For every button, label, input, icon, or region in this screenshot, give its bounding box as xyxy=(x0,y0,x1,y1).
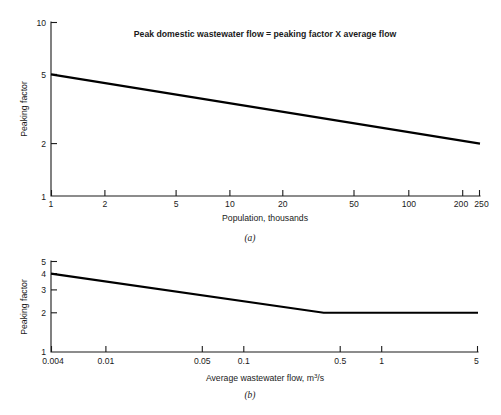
panel-a-xtick-100: 100 xyxy=(402,199,417,209)
panel-a-y-ticks xyxy=(51,23,57,144)
panel-b-y-ticklabels: 5 4 3 2 1 xyxy=(41,257,46,358)
panel-a-x-ticks xyxy=(52,190,480,196)
figure-container: Peak domestic wastewater flow = peaking … xyxy=(0,0,501,415)
panel-b-xtick-1: 1 xyxy=(379,356,384,366)
panel-b-y-ticks xyxy=(51,262,57,313)
panel-a-xtick-10: 10 xyxy=(225,199,235,209)
panel-a-xtick-1: 1 xyxy=(49,199,54,209)
panel-a-ytick-2: 2 xyxy=(41,139,46,149)
panel-a: Peak domestic wastewater flow = peaking … xyxy=(19,18,489,245)
panel-b-xtick-0004: 0.004 xyxy=(42,356,64,366)
panel-b-x-axis-label-base: Average wastewater flow, m xyxy=(206,373,314,383)
panel-b-ytick-4: 4 xyxy=(41,269,46,279)
panel-a-caption: (a) xyxy=(244,233,255,244)
panel-b-xtick-01: 0.1 xyxy=(238,356,250,366)
figure-svg: Peak domestic wastewater flow = peaking … xyxy=(0,0,501,415)
panel-b-ytick-5: 5 xyxy=(41,257,46,267)
panel-b-ytick-2: 2 xyxy=(41,308,46,318)
panel-a-xtick-20: 20 xyxy=(278,199,288,209)
panel-b-x-ticks xyxy=(52,346,478,352)
panel-a-xtick-50: 50 xyxy=(349,199,359,209)
panel-b-ytick-3: 3 xyxy=(41,285,46,295)
panel-a-y-axis-label: Peaking factor xyxy=(19,81,29,137)
panel-a-data-line xyxy=(51,74,480,143)
panel-b-x-axis-label: Average wastewater flow, m3/s xyxy=(206,372,325,383)
panel-a-y-ticklabels: 10 5 2 1 xyxy=(36,18,46,202)
panel-b-data-line xyxy=(51,274,478,313)
panel-a-ytick-10: 10 xyxy=(36,18,46,28)
panel-b-xtick-001: 0.01 xyxy=(98,356,115,366)
panel-b-x-axis-label-tail: /s xyxy=(317,373,324,383)
panel-a-xtick-250: 250 xyxy=(474,199,489,209)
panel-b-xtick-05: 0.5 xyxy=(334,356,346,366)
panel-b: 5 4 3 2 1 Peaking factor xyxy=(19,257,479,401)
panel-b-caption: (b) xyxy=(244,390,255,401)
panel-b-xtick-5: 5 xyxy=(474,356,479,366)
panel-b-xtick-005: 0.05 xyxy=(194,356,211,366)
panel-a-ytick-5: 5 xyxy=(41,70,46,80)
panel-a-x-axis-label: Population, thousands xyxy=(222,213,309,223)
panel-b-x-ticklabels: 0.004 0.01 0.05 0.1 0.5 1 5 xyxy=(42,356,479,366)
panel-a-xtick-200: 200 xyxy=(454,199,469,209)
panel-a-x-ticklabels: 1 2 5 10 20 50 100 200 250 xyxy=(49,199,489,209)
panel-a-ytick-1: 1 xyxy=(41,192,46,202)
panel-a-title: Peak domestic wastewater flow = peaking … xyxy=(134,29,397,39)
panel-a-xtick-2: 2 xyxy=(103,199,108,209)
panel-b-y-axis-label: Peaking factor xyxy=(19,279,29,335)
panel-b-axes xyxy=(51,261,478,352)
panel-a-xtick-5: 5 xyxy=(174,199,179,209)
